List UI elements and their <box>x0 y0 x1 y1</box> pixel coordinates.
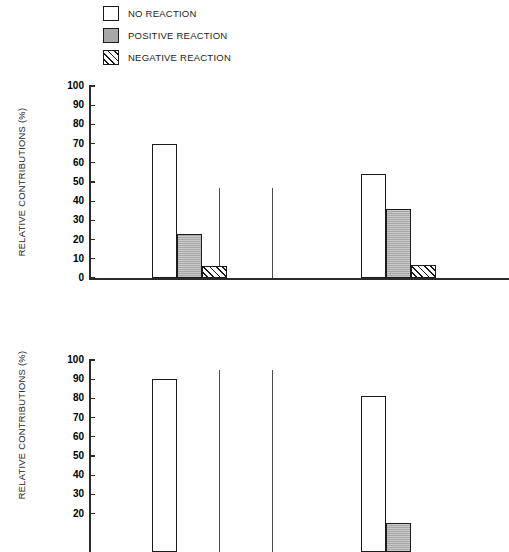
y-axis-tick <box>89 359 95 360</box>
y-axis-tick-label: 30 <box>73 489 84 499</box>
bar-neg <box>411 265 436 278</box>
chart-panel-top: RELATIVE CONTRIBUTIONS (%) 0102030405060… <box>0 78 497 286</box>
bar-pos <box>177 234 202 278</box>
group-divider <box>272 188 273 278</box>
y-axis-tick <box>89 398 95 399</box>
y-axis-tick <box>89 239 95 240</box>
legend-label: NO REACTION <box>128 8 197 19</box>
bar-pos <box>386 209 411 278</box>
group-divider <box>219 370 220 552</box>
y-axis-tick-label: 80 <box>73 119 84 129</box>
y-axis-tick-label: 60 <box>73 432 84 442</box>
y-axis-tick <box>89 181 95 182</box>
chart-legend: NO REACTION POSITIVE REACTION NEGATIVE R… <box>103 4 231 70</box>
y-axis-tick-label: 90 <box>73 100 84 110</box>
y-axis-tick-label: 40 <box>73 196 84 206</box>
y-axis-tick-label: 100 <box>67 355 84 365</box>
y-axis-tick-label: 90 <box>73 374 84 384</box>
y-axis-tick-label: 60 <box>73 158 84 168</box>
y-axis-tick <box>89 201 95 202</box>
legend-label: NEGATIVE REACTION <box>128 52 231 63</box>
y-axis-tick <box>89 85 95 86</box>
bar-none <box>361 174 386 278</box>
y-axis-tick <box>89 379 95 380</box>
legend-item-positive-reaction: POSITIVE REACTION <box>103 26 231 45</box>
plot-area-bottom: 2030405060708090100 <box>56 330 497 519</box>
bar-neg <box>202 266 227 278</box>
y-axis-tick-label: 70 <box>73 413 84 423</box>
y-axis-tick <box>89 475 95 476</box>
y-axis-title: RELATIVE CONTRIBUTIONS (%) <box>14 78 30 286</box>
legend-label: POSITIVE REACTION <box>128 30 227 41</box>
x-axis-line <box>89 278 509 280</box>
y-axis-tick-label: 40 <box>73 470 84 480</box>
legend-item-negative-reaction: NEGATIVE REACTION <box>103 48 231 67</box>
y-axis-tick <box>89 277 95 278</box>
legend-item-no-reaction: NO REACTION <box>103 4 231 23</box>
hatched-square-icon <box>103 50 119 65</box>
y-axis-tick <box>89 436 95 437</box>
y-axis-tick-label: 0 <box>78 273 84 283</box>
y-axis-tick <box>89 455 95 456</box>
y-axis-tick-label: 50 <box>73 451 84 461</box>
group-divider <box>272 370 273 552</box>
bar-pos <box>386 523 411 552</box>
bar-none <box>361 396 386 552</box>
y-axis-tick <box>89 258 95 259</box>
y-axis-tick <box>89 417 95 418</box>
group-divider <box>219 188 220 278</box>
bar-none <box>152 144 177 278</box>
chart-panel-bottom: RELATIVE CONTRIBUTIONS (%) 2030405060708… <box>0 330 497 519</box>
y-axis-title: RELATIVE CONTRIBUTIONS (%) <box>14 330 30 519</box>
y-axis-tick <box>89 143 95 144</box>
y-axis-tick <box>89 124 95 125</box>
filled-gray-square-icon <box>103 28 119 43</box>
y-axis-tick-label: 20 <box>73 235 84 245</box>
plot-area-top: 0102030405060708090100 <box>56 78 497 286</box>
y-axis-tick <box>89 220 95 221</box>
y-axis-tick-label: 80 <box>73 393 84 403</box>
y-axis-tick-label: 100 <box>67 81 84 91</box>
bar-none <box>152 379 177 552</box>
y-axis-tick-label: 20 <box>73 509 84 519</box>
open-square-icon <box>103 6 119 21</box>
y-axis-tick-label: 70 <box>73 139 84 149</box>
y-axis-tick <box>89 105 95 106</box>
y-axis-tick-label: 50 <box>73 177 84 187</box>
y-axis-tick-label: 10 <box>73 254 84 264</box>
y-axis-tick-label: 30 <box>73 215 84 225</box>
y-axis-tick <box>89 513 95 514</box>
y-axis-tick <box>89 162 95 163</box>
y-axis-tick <box>89 494 95 495</box>
